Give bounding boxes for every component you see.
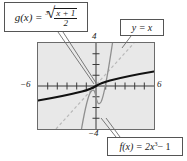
callout-identity-line: y = x [120,19,164,36]
radical-group: 3 √ x + 1 2 [44,7,78,27]
graph-plot-area [37,42,155,130]
f-function-tail: − 1 [157,141,170,152]
fraction-numerator: x + 1 [54,9,77,18]
identity-line-label: y = x [132,23,153,33]
g-function-lead: g(x) = [15,12,43,23]
x-axis-max-label: 6 [157,79,162,89]
f-function-expression: f(x) = 2x3− 1 [119,141,170,152]
y-axis-min-label: −4 [88,128,99,138]
y-axis-max-label: 4 [92,31,97,41]
graph-svg [38,43,154,129]
callout-g-function: g(x) = 3 √ x + 1 2 [4,2,88,32]
f-function-lead: f(x) = 2x [119,141,154,152]
fraction: x + 1 2 [54,8,77,28]
x-axis-min-label: −6 [20,79,31,89]
fraction-denominator: 2 [54,18,77,28]
callout-f-function: f(x) = 2x3− 1 [107,137,183,156]
figure-container: −6 6 4 −4 g(x) = 3 √ x + 1 2 y = x [0,0,187,161]
g-function-expression: g(x) = 3 √ x + 1 2 [15,7,78,27]
